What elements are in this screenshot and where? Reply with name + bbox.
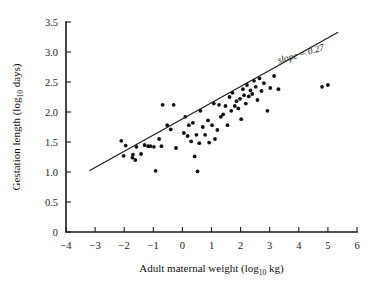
x-tick-label: 3 [267,240,272,251]
data-point [260,89,264,93]
plot-svg: −4−3−2−1012345600.51.01.52.02.53.03.5 sl… [0,0,375,284]
data-point [148,144,152,148]
data-point [262,81,266,85]
data-point [133,158,137,162]
data-point [139,152,143,156]
data-point [157,137,161,141]
data-point [228,95,232,99]
data-point [207,141,211,145]
data-point [191,121,195,125]
y-axis-title-tail: days) [10,63,23,90]
y-tick-label: 0 [53,227,58,238]
slope-annotation-group: slope = 0.27 [277,42,327,66]
y-axis-title: Gestation length (log10 days) [10,63,25,190]
x-tick-label: −3 [90,240,101,251]
y-tick-label: 0.5 [45,197,58,208]
data-point [203,133,207,137]
data-point [224,104,228,108]
data-point [197,141,201,145]
data-point [196,170,200,174]
data-point [239,117,243,121]
data-point [206,119,210,123]
y-tick-label: 1.0 [45,167,58,178]
x-tick-label: 0 [180,240,185,251]
x-tick-label: 2 [238,240,243,251]
data-point [194,133,198,137]
data-point [172,103,176,107]
data-point [213,137,217,141]
data-point [152,145,156,149]
x-tick-label: −4 [60,240,72,251]
data-point [265,109,269,113]
data-point [238,97,242,101]
x-axis-title: Adult maternal weight (log10 kg) [139,262,284,277]
data-point [131,153,135,157]
data-point [217,103,221,107]
data-point [226,123,230,127]
slope-annotation-label: slope = 0.27 [277,42,327,66]
data-point [221,113,225,117]
data-point [161,103,165,107]
y-tick-label: 3.5 [45,17,58,28]
x-tick-label: 6 [354,240,359,251]
x-tick-label: 5 [325,240,330,251]
data-point [244,102,248,106]
data-point [235,99,239,103]
y-tick-label: 3.0 [45,47,58,58]
data-point [233,104,237,108]
data-point [268,86,272,90]
data-point [201,125,205,129]
x-axis-title-main: Adult maternal weight (log [139,262,259,275]
data-point [277,87,281,91]
data-point [215,128,219,132]
data-point [193,155,197,159]
data-point [169,127,173,131]
data-point [229,109,233,113]
data-point [189,140,193,144]
data-point [254,85,258,89]
y-tick-label: 2.0 [45,107,58,118]
x-tick-label: −2 [119,240,130,251]
data-point [182,131,186,135]
data-point [186,134,190,138]
data-point [320,85,324,89]
data-point [119,139,123,143]
data-point [256,98,260,102]
y-tick-label: 1.5 [45,137,58,148]
x-tick-label: −1 [148,240,159,251]
data-point [326,83,330,87]
x-tick-label: 4 [296,240,302,251]
data-point [174,146,178,150]
data-point [250,92,254,96]
x-axis-title-tail: kg) [266,262,284,275]
data-point [242,93,246,97]
data-points-group [119,74,329,173]
data-point [272,74,276,78]
y-axis-title-main: Gestation length (log [10,97,23,190]
data-point [187,123,191,127]
data-point [236,107,240,111]
data-point [247,95,251,99]
data-point [124,144,128,148]
data-point [143,143,147,147]
data-point [241,87,245,91]
gestation-weight-scatter-figure: −4−3−2−1012345600.51.01.52.02.53.03.5 sl… [0,0,375,284]
y-tick-label: 2.5 [45,77,58,88]
data-point [154,169,158,173]
data-point [160,144,164,148]
data-point [122,154,126,158]
data-point [249,89,253,93]
data-point [210,123,214,127]
x-tick-label: 1 [209,240,214,251]
